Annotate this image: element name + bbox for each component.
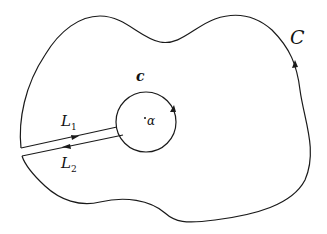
cut-line-L1-letter: L [61,112,71,130]
center-point [144,117,146,119]
cut-line-L1-label: L1 [61,114,77,132]
contour-diagram [0,0,327,234]
cut-line-L2-subscript: 2 [71,164,77,174]
cut-line-L2-label: L2 [61,156,77,174]
cut-line-L2-letter: L [61,154,71,172]
outer-contour-label: C [290,28,305,47]
cut-line-L1-subscript: 1 [71,122,77,132]
inner-circle-c [116,92,176,152]
center-label: α [147,115,155,127]
arrow-icon-L2 [62,144,71,149]
inner-circle-label: c [136,69,145,83]
